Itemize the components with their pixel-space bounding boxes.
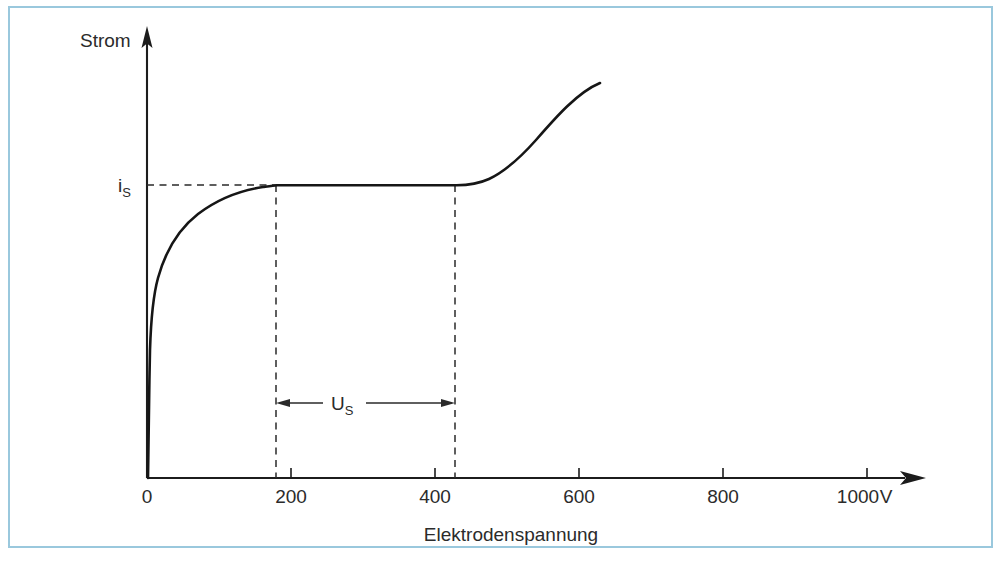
figure-root: Strom iS US 0 200 400 600 800 1000 V Ele… <box>0 0 1001 571</box>
x-tick-label-1000: 1000 <box>837 486 879 507</box>
saturation-curve <box>148 83 600 478</box>
saturation-current-label: iS <box>118 175 131 200</box>
x-tick-label-800: 800 <box>707 486 739 507</box>
x-tick-label-600: 600 <box>563 486 595 507</box>
x-axis-unit-label: V <box>880 486 893 507</box>
y-axis-title: Strom <box>80 30 131 51</box>
x-tick-label-0: 0 <box>142 486 153 507</box>
x-tick-label-200: 200 <box>275 486 307 507</box>
saturation-voltage-dimension <box>276 399 455 407</box>
x-tick-label-400: 400 <box>419 486 451 507</box>
current-voltage-characteristic-chart: Strom iS US 0 200 400 600 800 1000 V Ele… <box>0 0 1001 571</box>
x-axis-title: Elektrodenspannung <box>424 524 598 545</box>
saturation-voltage-label: US <box>331 393 354 418</box>
x-axis-ticks <box>147 468 867 478</box>
